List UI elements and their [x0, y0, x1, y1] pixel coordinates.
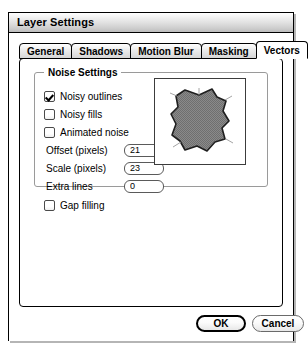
- layer-settings-dialog: Layer Settings General Shadows Motion Bl…: [8, 12, 294, 341]
- gap-filling-checkbox[interactable]: [44, 200, 55, 211]
- noisy-polygon-shape: [155, 79, 245, 164]
- ok-button[interactable]: OK: [196, 315, 246, 332]
- tab-shadows[interactable]: Shadows: [71, 43, 131, 59]
- animated-noise-checkbox[interactable]: [44, 127, 55, 138]
- tab-vectors[interactable]: Vectors: [256, 41, 302, 59]
- extra-lines-input[interactable]: [124, 180, 164, 193]
- field-row-extra-lines: Extra lines: [46, 179, 164, 193]
- title-bar[interactable]: Layer Settings: [9, 13, 293, 33]
- checkbox-row-noisy-outlines[interactable]: Noisy outlines: [44, 90, 122, 103]
- noisy-outlines-checkbox[interactable]: [44, 91, 55, 102]
- cancel-button[interactable]: Cancel: [252, 315, 302, 332]
- dialog-body: General Shadows Motion Blur Masking Vect…: [9, 33, 293, 341]
- checkbox-row-noisy-fills[interactable]: Noisy fills: [44, 108, 102, 121]
- tab-general[interactable]: General: [19, 43, 72, 59]
- button-bar: OK Cancel: [9, 311, 293, 339]
- noisy-fills-label: Noisy fills: [60, 109, 102, 120]
- noisy-polygon-preview: [154, 78, 246, 165]
- noise-settings-title: Noise Settings: [44, 67, 121, 78]
- window-title: Layer Settings: [17, 16, 94, 28]
- field-row-scale: Scale (pixels): [46, 161, 164, 175]
- tab-motion-blur[interactable]: Motion Blur: [130, 43, 202, 59]
- noisy-fills-checkbox[interactable]: [44, 109, 55, 120]
- vectors-tab-panel: Noise Settings Noisy outlines Noisy fill…: [19, 58, 283, 307]
- animated-noise-label: Animated noise: [60, 127, 129, 138]
- extra-lines-label: Extra lines: [46, 181, 124, 192]
- tab-strip: General Shadows Motion Blur Masking Vect…: [19, 41, 302, 59]
- checkbox-row-animated-noise[interactable]: Animated noise: [44, 126, 129, 139]
- noisy-outlines-label: Noisy outlines: [60, 91, 122, 102]
- field-row-offset: Offset (pixels): [46, 143, 164, 157]
- tab-masking[interactable]: Masking: [201, 43, 257, 59]
- gap-filling-label: Gap filling: [60, 200, 104, 211]
- checkbox-row-gap-filling[interactable]: Gap filling: [44, 199, 104, 212]
- offset-label: Offset (pixels): [46, 145, 124, 156]
- scale-label: Scale (pixels): [46, 163, 124, 174]
